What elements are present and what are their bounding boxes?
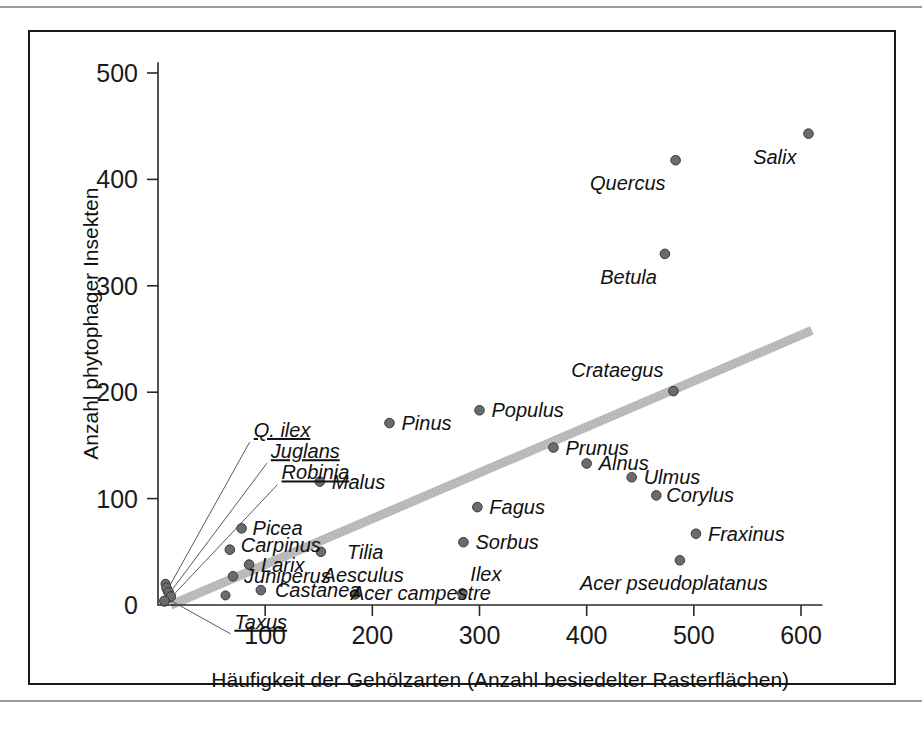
y-axis-title: Anzahl phytophager Insekten: [79, 188, 102, 460]
label-leader-line: [170, 442, 250, 586]
species-label: Carpinus: [241, 534, 321, 556]
species-label: Acer pseudoplatanus: [579, 572, 768, 594]
data-point[interactable]: [228, 571, 238, 581]
x-tick-label: 500: [673, 621, 715, 649]
data-labels-group: SalixQuercusBetulaCrataegusPopulusPinusP…: [234, 146, 797, 633]
axis-titles-group: Häufigkeit der Gehölzarten (Anzahl besie…: [79, 188, 789, 691]
data-point[interactable]: [160, 596, 170, 606]
species-label: Sorbus: [475, 531, 538, 553]
species-label: Aesculus: [322, 564, 404, 586]
data-point[interactable]: [804, 129, 814, 139]
data-point[interactable]: [225, 545, 235, 555]
data-point[interactable]: [237, 524, 247, 534]
data-point[interactable]: [675, 556, 685, 566]
x-tick-label: 600: [780, 621, 822, 649]
species-label: Crataegus: [571, 359, 663, 381]
species-label: Fraxinus: [708, 523, 785, 545]
data-point[interactable]: [459, 537, 469, 547]
y-tick-label: 0: [124, 591, 138, 619]
data-point[interactable]: [475, 405, 485, 415]
x-tick-label: 200: [351, 621, 393, 649]
y-tick-label: 300: [96, 272, 138, 300]
figure-page: 1002003004005006000100200300400500 Salix…: [0, 0, 922, 733]
species-label: Tilia: [347, 541, 384, 563]
x-tick-label: 400: [566, 621, 608, 649]
species-label: Betula: [600, 266, 657, 288]
species-label: Ilex: [470, 563, 502, 585]
data-point[interactable]: [660, 249, 670, 259]
scatter-plot: 1002003004005006000100200300400500 Salix…: [0, 0, 922, 733]
data-point[interactable]: [473, 502, 483, 512]
x-axis-title: Häufigkeit der Gehölzarten (Anzahl besie…: [211, 668, 789, 691]
data-point[interactable]: [549, 443, 559, 453]
species-label: Populus: [492, 399, 564, 421]
species-label: Salix: [753, 146, 797, 168]
axis-ticks-group: 1002003004005006000100200300400500: [96, 59, 822, 649]
species-label: Taxus: [234, 611, 287, 633]
species-label: Fagus: [489, 496, 545, 518]
data-point[interactable]: [221, 591, 230, 600]
species-label: Quercus: [590, 172, 666, 194]
label-leader-line: [167, 599, 230, 634]
species-label: Robinia: [282, 461, 350, 483]
y-tick-label: 200: [96, 378, 138, 406]
scatter-chart-svg: 1002003004005006000100200300400500 Salix…: [0, 0, 922, 733]
data-point[interactable]: [691, 529, 701, 539]
data-point[interactable]: [652, 491, 662, 501]
species-label: Juglans: [270, 440, 340, 462]
species-label: Pinus: [401, 412, 451, 434]
data-point[interactable]: [669, 386, 679, 396]
y-tick-label: 100: [96, 485, 138, 513]
data-point[interactable]: [385, 418, 395, 428]
data-point[interactable]: [582, 459, 592, 469]
y-tick-label: 500: [96, 59, 138, 87]
species-label: Alnus: [598, 452, 649, 474]
species-label: Corylus: [666, 484, 734, 506]
x-tick-label: 300: [459, 621, 501, 649]
species-label: Q. ilex: [254, 419, 312, 441]
data-point[interactable]: [671, 155, 681, 165]
y-tick-label: 400: [96, 165, 138, 193]
